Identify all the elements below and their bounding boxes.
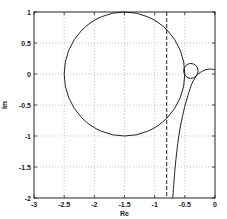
x-tick-label: 0 <box>213 201 217 208</box>
y-tick-label: 1 <box>27 9 31 16</box>
x-tick-label: -1 <box>152 201 158 208</box>
x-tick-label: -2 <box>91 201 97 208</box>
x-tick-labels: -3-2.5-2-1.5-1-0.50 <box>31 201 217 208</box>
x-tick-label: -1.5 <box>118 201 130 208</box>
y-tick-label: 0 <box>27 71 31 78</box>
plot-area: -3-2.5-2-1.5-1-0.50 -2-1.5-1-0.500.51 Re… <box>0 0 227 219</box>
y-tick-label: -1.5 <box>19 164 31 171</box>
y-tick-label: -1 <box>25 133 31 140</box>
y-tick-label: -2 <box>25 195 31 202</box>
y-tick-label: 0.5 <box>21 40 31 47</box>
y-axis-label: Im <box>1 101 8 109</box>
x-axis-label: Re <box>120 210 129 217</box>
x-tick-label: -3 <box>31 201 37 208</box>
x-tick-label: -2.5 <box>58 201 70 208</box>
curve <box>173 69 215 198</box>
grid-lines <box>34 12 215 198</box>
x-tick-label: -0.5 <box>179 201 191 208</box>
y-tick-label: -0.5 <box>19 102 31 109</box>
y-tick-labels: -2-1.5-1-0.500.51 <box>19 9 31 202</box>
